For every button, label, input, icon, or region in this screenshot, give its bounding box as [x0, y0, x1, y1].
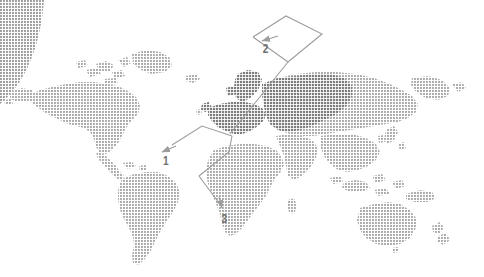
- callout-label-3: 3: [222, 211, 228, 225]
- callout-label-2: 2: [263, 41, 269, 55]
- callout-1-arrow: [162, 146, 176, 152]
- diagram-canvas: 1 2 3: [0, 0, 484, 277]
- diagram-svg: 1 2 3: [0, 0, 484, 277]
- callout-label-1: 1: [163, 153, 169, 167]
